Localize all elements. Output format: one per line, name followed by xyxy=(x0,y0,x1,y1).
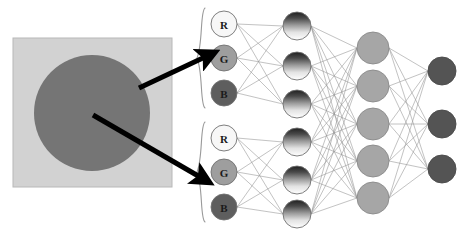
edge xyxy=(311,48,357,180)
input-group-braces xyxy=(197,8,205,222)
edge xyxy=(389,71,428,198)
edge xyxy=(311,26,357,161)
edge xyxy=(237,66,283,93)
edge xyxy=(237,138,283,180)
edge xyxy=(237,24,283,26)
input-node-b-1-label: B xyxy=(220,88,228,100)
network-edges xyxy=(237,24,428,214)
output-layer xyxy=(428,57,456,183)
hidden1-node-6 xyxy=(283,200,311,228)
edge xyxy=(389,124,428,161)
neural-network-figure: RGBRGB xyxy=(0,0,465,232)
hidden2-node-4 xyxy=(357,145,389,177)
edge xyxy=(389,48,428,169)
edge xyxy=(311,48,357,142)
hidden-layer-1 xyxy=(283,12,311,228)
hidden1-node-1 xyxy=(283,12,311,40)
hidden1-node-5 xyxy=(283,166,311,194)
output-node-2 xyxy=(428,110,456,138)
edge xyxy=(237,142,283,207)
hidden1-node-2 xyxy=(283,52,311,80)
input-node-r-2-label: R xyxy=(220,133,229,145)
input-layer: RGBRGB xyxy=(211,11,237,220)
hidden2-node-5 xyxy=(357,182,389,214)
network-nodes: RGBRGB xyxy=(211,11,456,228)
edge xyxy=(311,104,357,198)
brace-input-group-2 xyxy=(197,122,205,222)
output-node-1 xyxy=(428,57,456,85)
figure-canvas: RGBRGB xyxy=(0,0,465,232)
input-node-b-2-label: B xyxy=(220,202,228,214)
image-patch-circle xyxy=(34,55,150,171)
edges-hidden1-to-hidden2 xyxy=(311,26,357,214)
hidden-layer-2 xyxy=(357,32,389,214)
edges-hidden2-to-output xyxy=(389,48,428,198)
hidden2-node-2 xyxy=(357,70,389,102)
edge xyxy=(389,86,428,124)
edge xyxy=(237,172,283,214)
edges-input-to-hidden1 xyxy=(237,24,283,214)
edge xyxy=(237,142,283,172)
hidden1-node-3 xyxy=(283,90,311,118)
input-node-g-1-label: G xyxy=(220,53,229,65)
hidden2-node-3 xyxy=(357,108,389,140)
input-image-patch xyxy=(13,38,172,187)
edge xyxy=(237,93,283,104)
edge xyxy=(311,48,357,66)
edge xyxy=(237,26,283,58)
edge xyxy=(237,172,283,180)
edge xyxy=(389,169,428,198)
input-node-g-2-label: G xyxy=(220,167,229,179)
edge xyxy=(311,26,357,198)
edge xyxy=(311,26,357,48)
edge xyxy=(311,86,357,180)
hidden2-node-1 xyxy=(357,32,389,64)
edge xyxy=(311,161,357,180)
edge xyxy=(311,142,357,161)
hidden1-node-4 xyxy=(283,128,311,156)
edge xyxy=(237,138,283,142)
output-node-3 xyxy=(428,155,456,183)
edge xyxy=(389,86,428,169)
input-node-r-1-label: R xyxy=(220,19,229,31)
